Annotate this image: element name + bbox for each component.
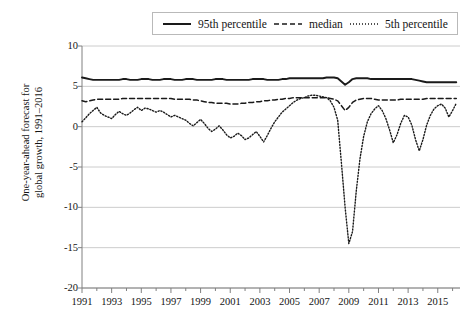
series-line-2 [82,98,456,111]
chart-figure: 95th percentile median 5th percentile On… [0,0,471,322]
plot-area [0,0,471,322]
series-line-1 [82,77,456,84]
series-line-3 [82,95,456,243]
